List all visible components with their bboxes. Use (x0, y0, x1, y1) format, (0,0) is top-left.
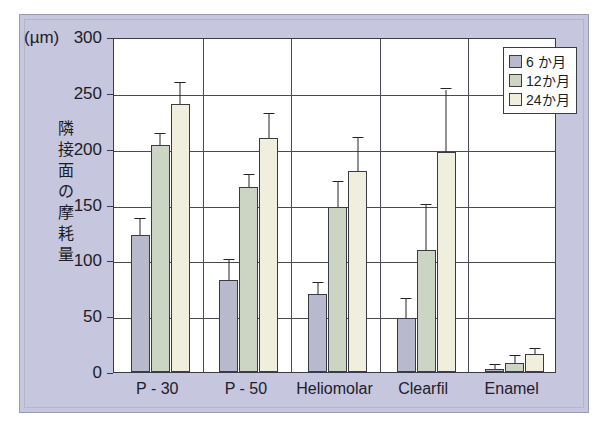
bar[interactable] (397, 318, 416, 372)
y-axis-tick-mark (107, 261, 113, 262)
y-axis-tick-label: 300 (0, 28, 102, 48)
bar[interactable] (348, 171, 367, 372)
legend-label: 12か月 (526, 74, 570, 88)
x-axis-category-label: Clearfil (398, 380, 448, 398)
error-bar-stem (140, 219, 141, 235)
y-axis-tick-mark (107, 94, 113, 95)
y-axis-tick-mark (107, 38, 113, 39)
error-bar-stem (268, 114, 269, 137)
bar[interactable] (417, 250, 436, 372)
y-axis-tick-mark (107, 373, 113, 374)
legend-item[interactable]: 6 か月 (509, 52, 570, 71)
error-bar-stem (337, 182, 338, 207)
legend-swatch (509, 74, 522, 87)
group-separator (291, 39, 292, 372)
bar-group-item[interactable] (219, 37, 238, 372)
error-bar-cap (243, 174, 254, 175)
x-axis-category-label: P - 30 (136, 380, 178, 398)
bar-group-item[interactable] (485, 37, 504, 372)
bar[interactable] (485, 369, 504, 372)
bar[interactable] (219, 280, 238, 372)
legend-swatch (509, 93, 522, 106)
bar-group-item[interactable] (437, 37, 456, 372)
bar[interactable] (259, 138, 278, 373)
error-bar-cap (223, 259, 234, 260)
x-axis-category-label: P - 50 (225, 380, 267, 398)
legend-item[interactable]: 24か月 (509, 90, 570, 109)
y-axis-title-char: 隣 (55, 118, 77, 139)
error-bar-cap (489, 364, 500, 365)
bar-group-item[interactable] (131, 37, 150, 372)
y-axis-tick-label: 50 (0, 307, 102, 327)
y-axis-tick-label: 100 (0, 251, 102, 271)
bar[interactable] (171, 104, 190, 372)
y-axis-tick-label: 250 (0, 84, 102, 104)
error-bar-cap (421, 204, 432, 205)
bar-group-item[interactable] (328, 37, 347, 372)
error-bar-cap (312, 282, 323, 283)
bar[interactable] (437, 152, 456, 372)
y-axis-tick-mark (107, 317, 113, 318)
bar-group-item[interactable] (171, 37, 190, 372)
y-axis-tick-mark (107, 206, 113, 207)
group-separator (380, 39, 381, 372)
error-bar-stem (228, 260, 229, 280)
error-bar-stem (357, 138, 358, 172)
legend-item[interactable]: 12か月 (509, 71, 570, 90)
error-bar-cap (441, 88, 452, 89)
y-axis-tick-label: 150 (0, 196, 102, 216)
error-bar-cap (401, 298, 412, 299)
y-axis-title-char: 面 (55, 160, 77, 181)
error-bar-cap (509, 355, 520, 356)
error-bar-stem (494, 365, 495, 368)
error-bar-stem (160, 134, 161, 145)
plot-area (113, 38, 556, 373)
error-bar-stem (180, 83, 181, 104)
error-bar-cap (135, 218, 146, 219)
error-bar-stem (317, 283, 318, 294)
bar[interactable] (308, 294, 327, 372)
bar[interactable] (131, 235, 150, 372)
legend-label: 6 か月 (526, 55, 566, 69)
y-axis-tick-label: 200 (0, 140, 102, 160)
error-bar-cap (155, 133, 166, 134)
y-axis-tick-mark (107, 150, 113, 151)
figure-root: (µm) 隣接面の摩耗量 050100150200250300P - 30P -… (0, 0, 608, 430)
legend: 6 か月12か月24か月 (503, 47, 577, 114)
bar-group-item[interactable] (151, 37, 170, 372)
error-bar-stem (426, 205, 427, 251)
bar-group-item[interactable] (348, 37, 367, 372)
bar[interactable] (151, 145, 170, 372)
error-bar-cap (332, 181, 343, 182)
error-bar-cap (352, 137, 363, 138)
bar[interactable] (239, 187, 258, 372)
error-bar-cap (263, 113, 274, 114)
error-bar-stem (406, 299, 407, 318)
bar-group-item[interactable] (259, 37, 278, 372)
legend-swatch (509, 55, 522, 68)
group-separator (468, 39, 469, 372)
error-bar-cap (175, 82, 186, 83)
error-bar-stem (248, 175, 249, 186)
bar-group-item[interactable] (239, 37, 258, 372)
legend-label: 24か月 (526, 93, 570, 107)
y-axis-tick-label: 0 (0, 363, 102, 383)
bar-group-item[interactable] (308, 37, 327, 372)
x-axis-category-label: Heliomolar (296, 380, 372, 398)
error-bar-cap (529, 348, 540, 349)
y-axis-title-char: 耗 (55, 223, 77, 244)
error-bar-stem (446, 90, 447, 153)
bar-group-item[interactable] (397, 37, 416, 372)
group-separator (203, 39, 204, 372)
bar[interactable] (525, 354, 544, 372)
error-bar-stem (514, 356, 515, 363)
error-bar-stem (534, 349, 535, 355)
bar[interactable] (328, 207, 347, 372)
bar-group-item[interactable] (417, 37, 436, 372)
x-axis-category-label: Enamel (485, 380, 539, 398)
bar[interactable] (505, 363, 524, 372)
